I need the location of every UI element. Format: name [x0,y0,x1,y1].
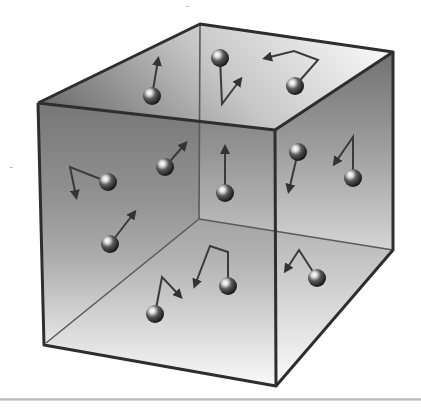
particle-sphere-icon [99,173,117,191]
particle-sphere-icon [146,305,164,323]
particle-sphere-icon [286,77,304,95]
baseline-rule [0,398,421,401]
gas-box-illustration [0,0,421,409]
particle-sphere-icon [101,235,119,253]
particle-sphere-icon [344,169,362,187]
particle-sphere-icon [308,269,326,287]
particle-sphere-icon [156,158,174,176]
front-face [38,103,276,386]
particle-sphere-icon [211,49,229,67]
particle-sphere-icon [219,277,237,295]
particle-sphere-icon [143,87,161,105]
speck [186,6,189,7]
particle-sphere-icon [289,143,307,161]
box-diagram [0,0,421,409]
speck [10,167,13,168]
particle-sphere-icon [216,184,234,202]
